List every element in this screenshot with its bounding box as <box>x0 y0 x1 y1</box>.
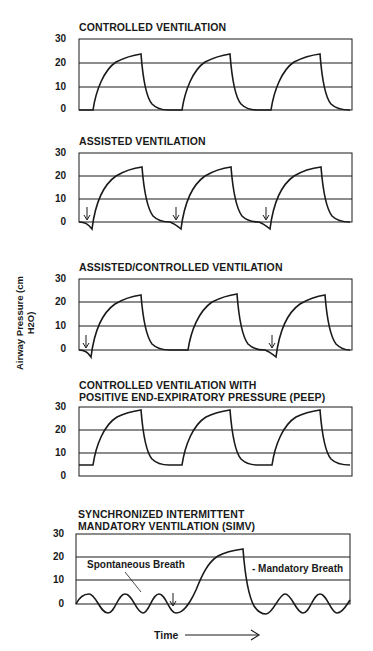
panel-3-plot <box>79 279 352 350</box>
waveform-canvas <box>0 0 373 651</box>
trigger-arrow-icon <box>84 207 90 220</box>
trigger-arrow-icon <box>83 335 89 348</box>
trigger-arrow-icon <box>173 207 179 220</box>
trigger-arrow-icon <box>269 335 275 348</box>
panel-1-plot <box>79 39 352 110</box>
panel-1-waveform <box>79 54 350 110</box>
trigger-arrow-icon <box>263 207 269 220</box>
panel-2-plot <box>79 153 352 222</box>
spontaneous-breath-pointer <box>125 572 141 592</box>
panel-4-waveform <box>79 410 350 465</box>
panel-4-plot <box>79 407 352 476</box>
panel-5-plot <box>76 534 350 604</box>
